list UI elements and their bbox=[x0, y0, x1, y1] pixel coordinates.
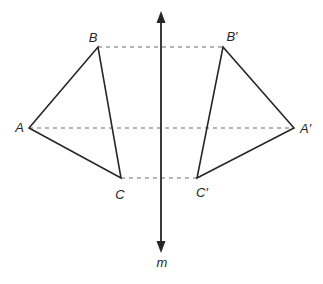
mirror-line-arrowhead-bottom bbox=[157, 241, 166, 253]
vertex-label-C: C bbox=[115, 187, 125, 202]
vertex-label-A-prime: A′ bbox=[299, 121, 312, 136]
mirror-line-arrowhead-top bbox=[157, 11, 166, 23]
reflection-figure: mABCB′A′C′ bbox=[0, 0, 323, 284]
reflection-diagram: mABCB′A′C′ bbox=[0, 0, 323, 284]
triangle-ABC bbox=[29, 47, 121, 178]
vertex-label-C-prime: C′ bbox=[196, 185, 208, 200]
triangle-A-prime-B-prime-C-prime bbox=[197, 47, 294, 178]
vertex-label-A: A bbox=[14, 120, 24, 135]
vertex-label-B: B bbox=[89, 30, 98, 45]
mirror-line-label: m bbox=[157, 255, 168, 270]
vertex-label-B-prime: B′ bbox=[226, 29, 238, 44]
